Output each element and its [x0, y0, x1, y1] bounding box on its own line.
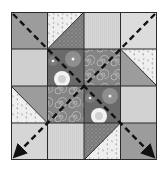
- cell-r0-c2: [84, 12, 121, 49]
- cell-r2-c0: [11, 86, 48, 123]
- cell-r3-c2: [84, 123, 121, 160]
- cell-r3-c1: [48, 123, 85, 160]
- cell-r2-c3: [121, 86, 158, 123]
- quilt-block: [11, 12, 157, 160]
- cell-r1-c0: [11, 49, 48, 86]
- cell-r0-c1: [48, 12, 85, 49]
- cell-r1-c3: [121, 49, 158, 86]
- quilt-diagram: [11, 12, 157, 160]
